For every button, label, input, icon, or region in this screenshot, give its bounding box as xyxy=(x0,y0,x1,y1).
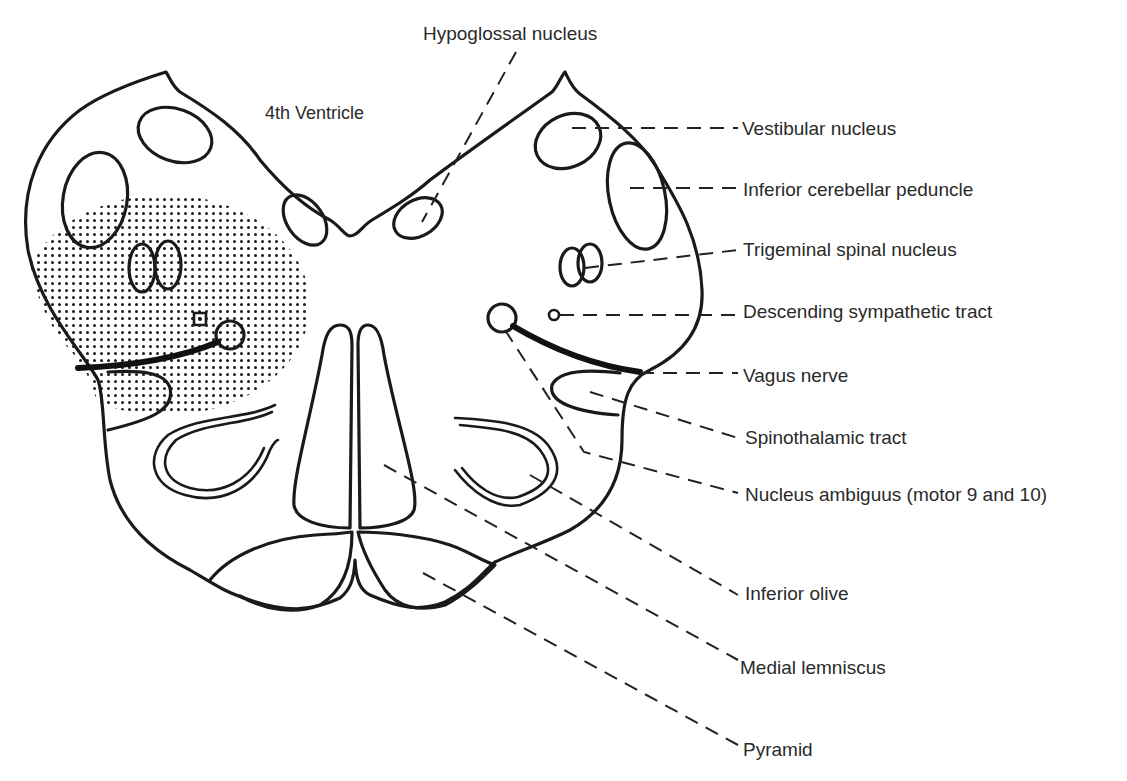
label-inferior-cerebellar-peduncle: Inferior cerebellar peduncle xyxy=(743,180,973,199)
sympathetic-tract-right xyxy=(549,310,559,320)
label-hypoglossal-nucleus: Hypoglossal nucleus xyxy=(423,24,597,43)
label-inferior-olive: Inferior olive xyxy=(745,584,849,603)
label-descending-sympathetic-tract: Descending sympathetic tract xyxy=(743,302,992,321)
medial-lemniscus-right xyxy=(358,325,415,528)
label-vagus-nerve: Vagus nerve xyxy=(743,366,848,385)
medulla-diagram: Hypoglossal nucleus 4th Ventricle Vestib… xyxy=(0,0,1127,781)
label-spinothalamic-tract: Spinothalamic tract xyxy=(745,428,907,447)
trigeminal-right-b xyxy=(578,244,602,282)
vagus-nerve-right xyxy=(513,326,640,372)
leader-lines xyxy=(384,52,738,745)
medulla-cross-section xyxy=(0,0,1127,781)
hypoglossal-nucleus xyxy=(386,189,449,246)
label-pyramid: Pyramid xyxy=(743,740,813,759)
label-nucleus-ambiguus: Nucleus ambiguus (motor 9 and 10) xyxy=(745,485,1047,504)
pyramid-right xyxy=(358,532,495,608)
label-4th-ventricle: 4th Ventricle xyxy=(265,104,364,122)
inferior-olive-right xyxy=(455,418,557,506)
label-medial-lemniscus: Medial lemniscus xyxy=(740,658,886,677)
label-trigeminal-spinal-nucleus: Trigeminal spinal nucleus xyxy=(743,240,957,259)
pyramid-left xyxy=(210,532,352,610)
icp-right xyxy=(598,137,675,254)
label-vestibular-nucleus: Vestibular nucleus xyxy=(742,119,896,138)
medial-lemniscus-left xyxy=(294,325,352,528)
vestibular-nucleus-right xyxy=(526,103,610,179)
inferior-olive-left xyxy=(154,405,278,498)
spinothalamic-right xyxy=(552,371,620,415)
